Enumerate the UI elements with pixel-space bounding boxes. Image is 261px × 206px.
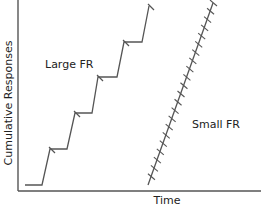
large-fr-series — [25, 4, 154, 185]
small-fr-label: Small FR — [192, 118, 240, 131]
y-axis-label: Cumulative Responses — [2, 40, 15, 165]
large-fr-line — [25, 6, 149, 185]
cumulative-record-chart: Cumulative Responses Time Large FR Small… — [0, 0, 261, 206]
x-axis-label: Time — [153, 194, 181, 206]
small-fr-series — [148, 0, 217, 185]
reinforcement-mark — [210, 0, 217, 6]
large-fr-label: Large FR — [45, 58, 94, 71]
